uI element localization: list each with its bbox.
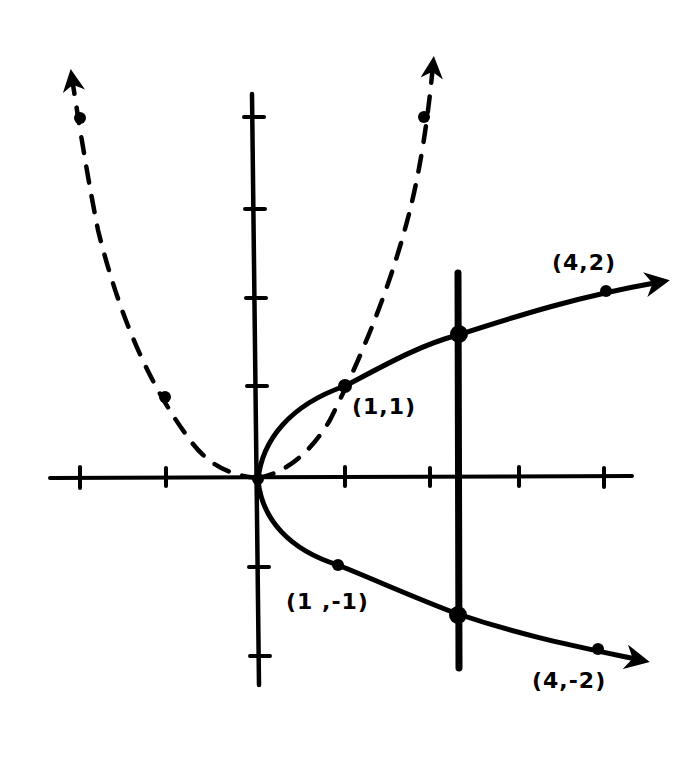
point-neg2-4 (74, 112, 86, 124)
label-point-1-1: (1,1) (352, 394, 416, 419)
graph-canvas (0, 0, 695, 763)
x-axis (50, 467, 632, 488)
label-point-1-neg1: (1 ,-1) (286, 589, 369, 614)
intersection-lower (449, 606, 467, 624)
intersection-upper (450, 325, 468, 343)
point-4-2 (600, 285, 612, 297)
label-point-4-2: (4,2) (552, 250, 616, 275)
point-2-4 (418, 111, 430, 123)
y-axis (244, 94, 270, 685)
point-neg1-1 (159, 391, 171, 403)
point-origin (252, 473, 264, 485)
point-1-1 (338, 379, 352, 393)
label-point-4-neg2: (4,-2) (532, 668, 606, 693)
point-1-neg1 (332, 559, 344, 571)
point-4-neg2 (592, 643, 604, 655)
vertical-line-test (449, 273, 468, 668)
